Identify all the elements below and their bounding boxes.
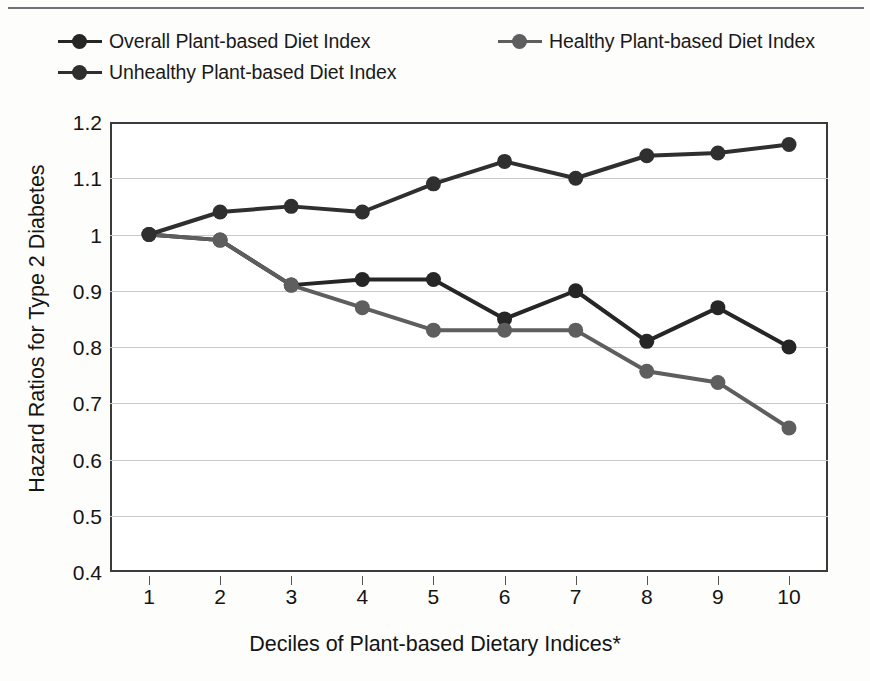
series-line	[149, 235, 789, 429]
data-point-marker[interactable]	[782, 421, 797, 436]
y-tick-label: 0.7	[42, 393, 102, 414]
series-3	[142, 137, 797, 242]
data-point-marker[interactable]	[355, 205, 370, 220]
circle-marker-overall-icon	[58, 32, 102, 50]
data-point-marker[interactable]	[426, 323, 441, 338]
x-tick-mark	[647, 576, 648, 585]
data-point-marker[interactable]	[639, 334, 654, 349]
data-point-marker[interactable]	[710, 375, 725, 390]
legend-label-healthy: Healthy Plant-based Diet Index	[549, 30, 815, 52]
x-tick-mark	[220, 576, 221, 585]
data-point-marker[interactable]	[710, 300, 725, 315]
x-tick-mark	[505, 576, 506, 585]
data-point-marker[interactable]	[355, 300, 370, 315]
x-tick-mark	[433, 576, 434, 585]
x-tick-mark	[291, 576, 292, 585]
x-axis-tick-labels: 12345678910	[110, 586, 828, 612]
data-point-marker[interactable]	[497, 154, 512, 169]
y-tick-label: 1.2	[42, 112, 102, 133]
data-point-marker[interactable]	[710, 145, 725, 160]
x-tick-label: 4	[332, 586, 392, 607]
data-point-marker[interactable]	[568, 171, 583, 186]
data-point-marker[interactable]	[284, 199, 299, 214]
data-point-marker[interactable]	[142, 227, 157, 242]
y-axis-title: Hazard Ratios for Type 2 Diabetes	[25, 139, 50, 519]
x-tick-mark	[718, 576, 719, 585]
data-point-marker[interactable]	[426, 272, 441, 287]
legend-label-unhealthy: Unhealthy Plant-based Diet Index	[109, 61, 396, 83]
x-tick-label: 10	[759, 586, 819, 607]
x-tick-label: 6	[475, 586, 535, 607]
circle-marker-unhealthy-icon	[58, 63, 102, 81]
x-tick-label: 7	[546, 586, 606, 607]
series-layer	[110, 122, 828, 572]
x-tick-label: 1	[119, 586, 179, 607]
series-line	[149, 145, 789, 235]
legend-item-healthy[interactable]: Healthy Plant-based Diet Index	[498, 28, 815, 54]
y-tick-label: 0.8	[42, 337, 102, 358]
y-tick-label: 0.6	[42, 450, 102, 471]
x-tick-label: 2	[190, 586, 250, 607]
x-tick-mark	[576, 576, 577, 585]
y-tick-label: 0.9	[42, 281, 102, 302]
data-point-marker[interactable]	[782, 340, 797, 355]
x-tick-mark	[149, 576, 150, 585]
data-point-marker[interactable]	[639, 364, 654, 379]
figure-root: Overall Plant-based Diet Index Healthy P…	[0, 0, 870, 681]
x-tick-label: 8	[617, 586, 677, 607]
data-point-marker[interactable]	[213, 233, 228, 248]
x-tick-mark	[362, 576, 363, 585]
y-tick-label: 0.4	[42, 562, 102, 583]
legend-item-unhealthy[interactable]: Unhealthy Plant-based Diet Index	[58, 59, 396, 85]
data-point-marker[interactable]	[568, 323, 583, 338]
chart-legend: Overall Plant-based Diet Index Healthy P…	[58, 28, 848, 90]
data-point-marker[interactable]	[426, 176, 441, 191]
data-point-marker[interactable]	[568, 283, 583, 298]
x-tick-label: 3	[261, 586, 321, 607]
x-tick-label: 9	[688, 586, 748, 607]
data-point-marker[interactable]	[284, 278, 299, 293]
y-tick-label: 1.1	[42, 168, 102, 189]
legend-item-overall[interactable]: Overall Plant-based Diet Index	[58, 28, 370, 54]
data-point-marker[interactable]	[213, 205, 228, 220]
x-axis-title: Deciles of Plant-based Dietary Indices*	[0, 632, 870, 657]
x-tick-mark	[789, 576, 790, 585]
top-divider-rule	[8, 7, 864, 9]
circle-marker-healthy-icon	[498, 32, 542, 50]
y-tick-label: 1	[42, 225, 102, 246]
plot-area	[110, 122, 828, 572]
data-point-marker[interactable]	[782, 137, 797, 152]
series-2	[142, 227, 797, 436]
x-tick-label: 5	[403, 586, 463, 607]
legend-label-overall: Overall Plant-based Diet Index	[109, 30, 370, 52]
series-1	[142, 227, 797, 355]
data-point-marker[interactable]	[355, 272, 370, 287]
data-point-marker[interactable]	[497, 323, 512, 338]
y-tick-label: 0.5	[42, 506, 102, 527]
data-point-marker[interactable]	[639, 148, 654, 163]
